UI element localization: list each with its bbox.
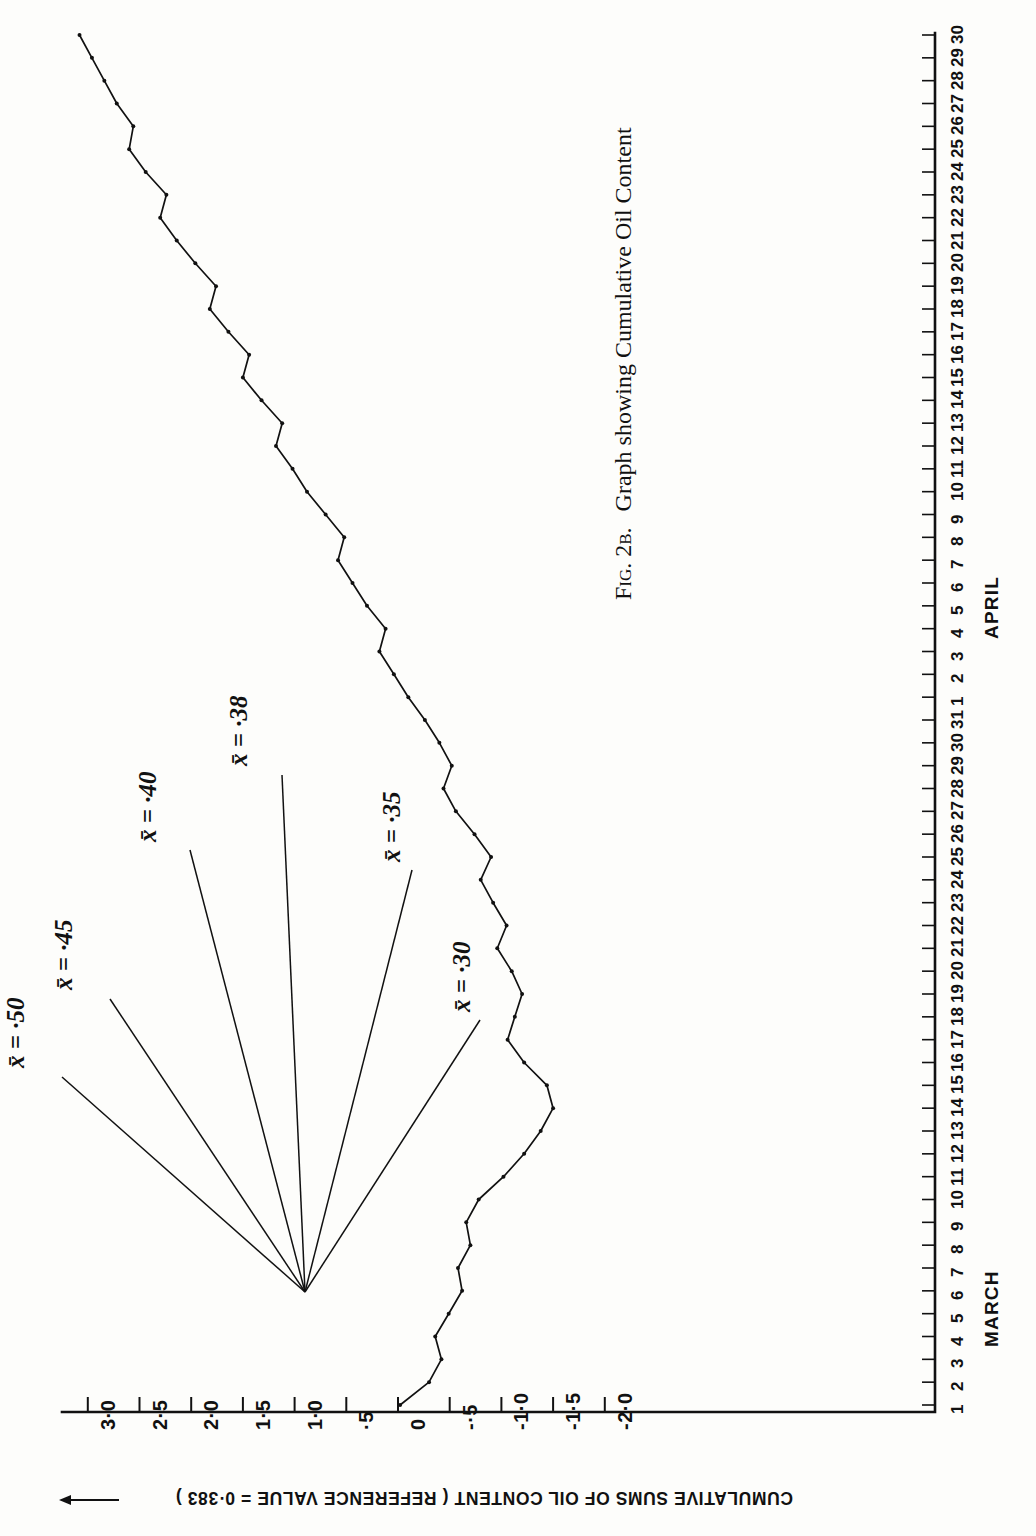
date-tick-march-10: 10 — [948, 1190, 968, 1209]
date-tick-april-17: 17 — [948, 322, 968, 341]
date-tick-april-1: 1 — [948, 697, 968, 706]
date-tick-april-28: 28 — [948, 71, 968, 90]
date-tick-march-29: 29 — [948, 756, 968, 775]
annotation-label-2: x̄ = ·40 — [134, 772, 162, 843]
date-tick-april-4: 4 — [948, 628, 968, 637]
date-tick-march-15: 15 — [948, 1075, 968, 1094]
value-tick-5: ·5 — [355, 1411, 378, 1430]
date-tick-april-6: 6 — [948, 583, 968, 592]
annotation-label-1: x̄ = ·45 — [50, 920, 78, 991]
date-tick-april-2: 2 — [948, 674, 968, 683]
value-tick-1: 2·5 — [149, 1400, 172, 1430]
date-tick-april-5: 5 — [948, 605, 968, 614]
month-label-april: APRIL — [981, 576, 1003, 639]
date-tick-march-14: 14 — [948, 1098, 968, 1117]
date-tick-april-27: 27 — [948, 94, 968, 113]
date-tick-april-19: 19 — [948, 276, 968, 295]
date-tick-march-6: 6 — [948, 1290, 968, 1299]
value-tick-7: -·5 — [459, 1404, 482, 1430]
date-tick-march-19: 19 — [948, 984, 968, 1003]
rotated-plot-stage: x̄ = ·50x̄ = ·45x̄ = ·40x̄ = ·38x̄ = ·35… — [0, 0, 1036, 1536]
date-tick-march-5: 5 — [948, 1313, 968, 1322]
value-tick-3: 1·5 — [252, 1400, 275, 1430]
date-tick-march-21: 21 — [948, 938, 968, 957]
date-tick-april-21: 21 — [948, 231, 968, 250]
date-tick-march-11: 11 — [948, 1168, 968, 1186]
date-tick-march-3: 3 — [948, 1359, 968, 1368]
annotation-label-5: x̄ = ·30 — [448, 942, 476, 1013]
date-tick-march-18: 18 — [948, 1007, 968, 1026]
annotation-label-4: x̄ = ·35 — [378, 792, 406, 863]
value-tick-2: 2·0 — [200, 1400, 223, 1430]
date-tick-april-18: 18 — [948, 299, 968, 318]
figure-caption: Fig. 2b. Graph showing Cumulative Oil Co… — [610, 127, 637, 600]
date-tick-april-20: 20 — [948, 253, 968, 272]
date-tick-march-1: 1 — [948, 1405, 968, 1414]
date-tick-march-4: 4 — [948, 1336, 968, 1345]
figure-number: Fig. 2b. — [610, 527, 636, 600]
date-tick-march-30: 30 — [948, 733, 968, 752]
date-tick-march-2: 2 — [948, 1382, 968, 1391]
date-tick-march-24: 24 — [948, 870, 968, 889]
value-axis-arrow-icon — [58, 1493, 120, 1507]
date-tick-march-12: 12 — [948, 1144, 968, 1163]
date-tick-march-17: 17 — [948, 1030, 968, 1049]
cusum-line-chart — [0, 0, 1036, 1536]
date-tick-march-31: 31 — [948, 710, 968, 729]
date-tick-march-9: 9 — [948, 1222, 968, 1231]
figure-caption-text: Graph showing Cumulative Oil Content — [610, 127, 636, 511]
value-tick-6: 0 — [407, 1418, 430, 1430]
value-axis-title: CUMULATIVE SUMS OF OIL CONTENT ( REFEREN… — [175, 1487, 793, 1508]
date-tick-april-11: 11 — [948, 460, 968, 478]
annotation-label-0: x̄ = ·50 — [2, 998, 30, 1069]
date-tick-april-7: 7 — [948, 560, 968, 569]
value-tick-9: -1·5 — [562, 1392, 585, 1430]
date-tick-april-30: 30 — [948, 25, 968, 44]
value-tick-10: -2·0 — [614, 1392, 637, 1430]
date-tick-april-29: 29 — [948, 48, 968, 67]
date-tick-march-22: 22 — [948, 916, 968, 935]
annotation-label-3: x̄ = ·38 — [225, 696, 253, 767]
date-tick-march-7: 7 — [948, 1268, 968, 1277]
date-tick-march-23: 23 — [948, 893, 968, 912]
date-tick-march-28: 28 — [948, 779, 968, 798]
date-tick-march-16: 16 — [948, 1053, 968, 1072]
date-tick-april-25: 25 — [948, 139, 968, 158]
month-label-march: MARCH — [981, 1270, 1003, 1347]
date-tick-april-15: 15 — [948, 368, 968, 387]
date-tick-april-12: 12 — [948, 436, 968, 455]
date-tick-april-9: 9 — [948, 514, 968, 523]
date-tick-april-3: 3 — [948, 651, 968, 660]
date-tick-april-26: 26 — [948, 116, 968, 135]
date-tick-march-25: 25 — [948, 847, 968, 866]
date-tick-march-27: 27 — [948, 801, 968, 820]
date-tick-march-13: 13 — [948, 1121, 968, 1140]
date-tick-april-22: 22 — [948, 208, 968, 227]
plot-stage-wrapper: x̄ = ·50x̄ = ·45x̄ = ·40x̄ = ·38x̄ = ·35… — [0, 0, 1036, 1536]
date-tick-april-24: 24 — [948, 162, 968, 181]
value-tick-0: 3·0 — [97, 1400, 120, 1430]
figure-page: x̄ = ·50x̄ = ·45x̄ = ·40x̄ = ·38x̄ = ·35… — [0, 0, 1036, 1536]
value-tick-8: -1·0 — [510, 1392, 533, 1430]
date-tick-april-23: 23 — [948, 185, 968, 204]
date-tick-april-13: 13 — [948, 413, 968, 432]
date-tick-april-14: 14 — [948, 390, 968, 409]
date-tick-april-8: 8 — [948, 537, 968, 546]
date-tick-april-10: 10 — [948, 482, 968, 501]
date-tick-march-20: 20 — [948, 961, 968, 980]
value-tick-4: 1·0 — [304, 1400, 327, 1430]
date-tick-march-26: 26 — [948, 824, 968, 843]
date-tick-march-8: 8 — [948, 1245, 968, 1254]
date-tick-april-16: 16 — [948, 345, 968, 364]
